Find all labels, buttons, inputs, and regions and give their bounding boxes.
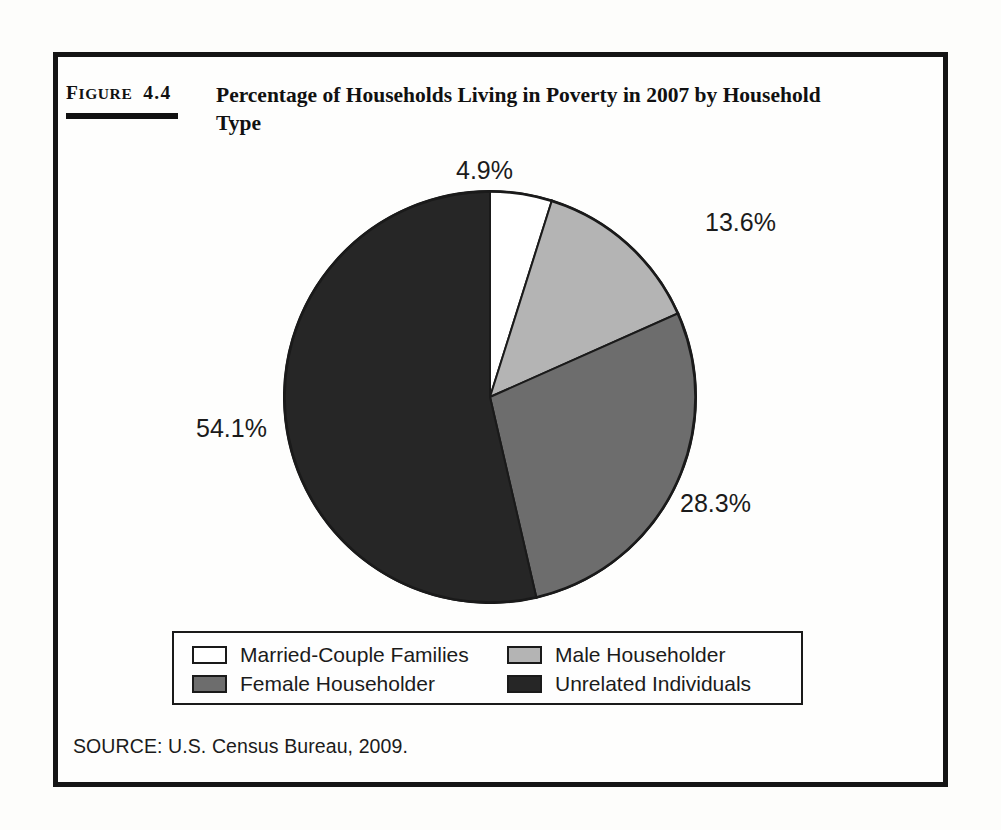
legend-row: Married-Couple Families Male Householder — [192, 640, 791, 669]
legend-swatch-married-couple-families — [192, 646, 227, 664]
figure-label-caps: IGURE — [79, 85, 133, 102]
page-title: Percentage of Households Living in Pover… — [216, 80, 826, 138]
pie-label-unrelated-individuals: 54.1% — [196, 414, 267, 443]
legend-label-unrelated-individuals: Unrelated Individuals — [555, 672, 751, 696]
legend-item-female-householder: Female Householder — [192, 672, 507, 696]
pie-chart — [283, 190, 697, 604]
legend-label-female-householder: Female Householder — [240, 672, 435, 696]
source-note: SOURCE: U.S. Census Bureau, 2009. — [73, 735, 408, 758]
figure-rule — [66, 113, 178, 119]
figure-label: FIGURE 4.4 — [66, 82, 216, 104]
legend-item-unrelated-individuals: Unrelated Individuals — [507, 672, 751, 696]
legend-swatch-female-householder — [192, 675, 227, 693]
pie-chart-svg — [283, 190, 697, 604]
legend-row: Female Householder Unrelated Individuals — [192, 669, 791, 698]
figure-header: FIGURE 4.4 Percentage of Households Livi… — [66, 80, 826, 138]
legend-swatch-male-householder — [507, 646, 542, 664]
legend-label-male-householder: Male Householder — [555, 643, 725, 667]
pie-label-female-householder: 28.3% — [680, 489, 751, 518]
pie-label-married-couple-families: 4.9% — [456, 156, 513, 185]
legend-item-male-householder: Male Householder — [507, 643, 725, 667]
figure-label-block: FIGURE 4.4 — [66, 80, 216, 119]
legend-swatch-unrelated-individuals — [507, 675, 542, 693]
figure-label-number: 4.4 — [143, 82, 171, 103]
chart-legend: Married-Couple Families Male Householder… — [172, 631, 803, 705]
legend-item-married-couple-families: Married-Couple Families — [192, 643, 507, 667]
pie-label-male-householder: 13.6% — [705, 208, 776, 237]
pie-slices — [284, 191, 696, 603]
figure-label-prefix: F — [66, 82, 79, 103]
legend-label-married-couple-families: Married-Couple Families — [240, 643, 469, 667]
